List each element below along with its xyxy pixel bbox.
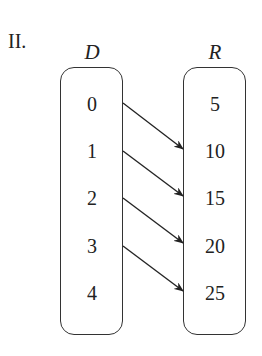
- arrow-0-to-10: [123, 103, 183, 149]
- arrow-2-to-20: [123, 198, 183, 243]
- arrow-3-to-25: [123, 246, 183, 291]
- arrow-1-to-15: [123, 151, 183, 196]
- mapping-arrows: [0, 0, 262, 356]
